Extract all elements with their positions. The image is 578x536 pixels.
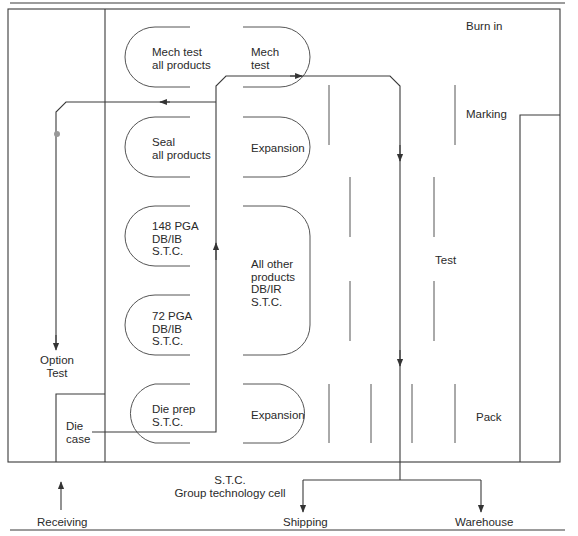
label-shipping: Shipping (283, 516, 328, 529)
label-mech-test: Mech test (251, 46, 279, 71)
junction-dot (54, 131, 60, 137)
label-die-prep: Die prep S.T.C. (152, 403, 195, 428)
zone-marking: Marking (466, 108, 507, 121)
zone-burn-in: Burn in (466, 20, 502, 33)
label-warehouse: Warehouse (455, 516, 513, 529)
label-seal-all: Seal all products (152, 136, 211, 161)
label-expansion-bottom: Expansion (251, 409, 305, 422)
label-pga148: 148 PGA DB/IB S.T.C. (152, 220, 199, 258)
zone-die-case: Die case (66, 420, 90, 445)
caption-stc: S.T.C. Group technology cell (160, 474, 300, 499)
zone-option-test: Option Test (33, 354, 81, 379)
label-expansion-top: Expansion (251, 142, 305, 155)
label-receiving: Receiving (37, 516, 88, 529)
label-pga72: 72 PGA DB/IB S.T.C. (152, 310, 192, 348)
label-mech-test-all: Mech test all products (152, 46, 211, 71)
zone-test: Test (435, 254, 456, 267)
main-flow-line (92, 76, 400, 462)
label-all-other: All other products DB/IR S.T.C. (251, 258, 295, 308)
right-annex (520, 115, 560, 462)
zone-pack: Pack (476, 411, 502, 424)
